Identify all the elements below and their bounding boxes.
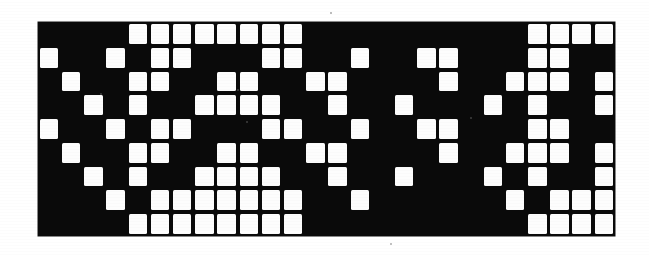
- matrix-cell-off: [504, 46, 526, 70]
- matrix-cell-off: [38, 70, 60, 94]
- matrix-cell-off: [437, 212, 459, 236]
- matrix-cell-on: [193, 212, 215, 236]
- matrix-cell-off: [82, 141, 104, 165]
- matrix-cell-off: [349, 212, 371, 236]
- matrix-cell-off: [349, 141, 371, 165]
- matrix-cell-off: [571, 70, 593, 94]
- matrix-cell-off: [193, 141, 215, 165]
- matrix-cell-on: [548, 188, 570, 212]
- matrix-cell-off: [526, 188, 548, 212]
- matrix-cell-off: [482, 22, 504, 46]
- matrix-cell-on: [282, 212, 304, 236]
- matrix-cell-off: [349, 93, 371, 117]
- matrix-cell-on: [260, 117, 282, 141]
- matrix-cell-off: [38, 188, 60, 212]
- matrix-cell-on: [548, 141, 570, 165]
- matrix-cell-off: [571, 93, 593, 117]
- matrix-cell-off: [482, 141, 504, 165]
- matrix-cell-on: [260, 165, 282, 189]
- matrix-cell-on: [504, 141, 526, 165]
- matrix-cell-on: [171, 22, 193, 46]
- matrix-cell-on: [526, 141, 548, 165]
- matrix-cell-on: [393, 165, 415, 189]
- matrix-cell-off: [60, 117, 82, 141]
- matrix-cell-off: [304, 165, 326, 189]
- matrix-cell-off: [327, 117, 349, 141]
- matrix-cell-off: [571, 141, 593, 165]
- matrix-cell-on: [327, 93, 349, 117]
- matrix-cell-off: [60, 212, 82, 236]
- matrix-cell-on: [38, 46, 60, 70]
- matrix-cell-off: [371, 70, 393, 94]
- matrix-cell-on: [149, 117, 171, 141]
- matrix-cell-off: [571, 165, 593, 189]
- matrix-cell-off: [393, 46, 415, 70]
- matrix-cell-off: [60, 165, 82, 189]
- matrix-cell-off: [437, 93, 459, 117]
- matrix-cell-off: [393, 212, 415, 236]
- matrix-cell-off: [38, 22, 60, 46]
- matrix-cell-off: [327, 46, 349, 70]
- matrix-cell-off: [38, 212, 60, 236]
- matrix-cell-on: [105, 188, 127, 212]
- matrix-cell-on: [437, 46, 459, 70]
- matrix-cell-off: [105, 22, 127, 46]
- matrix-cell-off: [415, 212, 437, 236]
- matrix-cell-on: [304, 141, 326, 165]
- matrix-cell-on: [526, 46, 548, 70]
- matrix-cell-on: [216, 165, 238, 189]
- matrix-cell-on: [127, 93, 149, 117]
- matrix-cell-off: [260, 70, 282, 94]
- matrix-cell-off: [460, 141, 482, 165]
- matrix-cell-on: [482, 93, 504, 117]
- matrix-cell-on: [105, 117, 127, 141]
- matrix-cell-on: [260, 212, 282, 236]
- matrix-cell-off: [393, 70, 415, 94]
- matrix-cell-off: [571, 46, 593, 70]
- matrix-cell-on: [260, 22, 282, 46]
- matrix-cell-on: [415, 117, 437, 141]
- matrix-cell-off: [60, 22, 82, 46]
- matrix-cell-on: [548, 22, 570, 46]
- matrix-cell-off: [482, 70, 504, 94]
- scan-speck: [390, 243, 392, 245]
- matrix-cell-off: [371, 93, 393, 117]
- matrix-cell-off: [371, 22, 393, 46]
- matrix-cell-on: [238, 70, 260, 94]
- matrix-plate: [38, 22, 615, 236]
- matrix-cell-off: [593, 46, 615, 70]
- matrix-cell-off: [415, 22, 437, 46]
- matrix-cell-off: [415, 93, 437, 117]
- matrix-cell-on: [526, 165, 548, 189]
- matrix-cell-on: [149, 212, 171, 236]
- matrix-cell-off: [437, 188, 459, 212]
- matrix-cell-on: [149, 141, 171, 165]
- matrix-cell-off: [460, 70, 482, 94]
- matrix-cell-on: [216, 93, 238, 117]
- matrix-cell-off: [38, 141, 60, 165]
- matrix-cell-on: [260, 93, 282, 117]
- matrix-cell-off: [327, 188, 349, 212]
- matrix-cell-on: [349, 188, 371, 212]
- matrix-cell-on: [127, 212, 149, 236]
- matrix-cell-on: [82, 165, 104, 189]
- matrix-cell-on: [60, 141, 82, 165]
- matrix-cell-off: [460, 165, 482, 189]
- matrix-cell-on: [171, 212, 193, 236]
- matrix-cell-on: [38, 117, 60, 141]
- matrix-cell-on: [171, 46, 193, 70]
- matrix-cell-on: [216, 70, 238, 94]
- matrix-cell-on: [593, 22, 615, 46]
- matrix-cell-off: [105, 70, 127, 94]
- matrix-cell-off: [171, 141, 193, 165]
- matrix-cell-on: [526, 93, 548, 117]
- matrix-cell-off: [460, 46, 482, 70]
- matrix-cell-off: [327, 22, 349, 46]
- matrix-cell-on: [593, 188, 615, 212]
- matrix-cell-on: [504, 70, 526, 94]
- matrix-cell-on: [282, 117, 304, 141]
- matrix-cell-off: [171, 165, 193, 189]
- matrix-cell-off: [482, 188, 504, 212]
- matrix-cell-on: [82, 93, 104, 117]
- matrix-cell-off: [482, 46, 504, 70]
